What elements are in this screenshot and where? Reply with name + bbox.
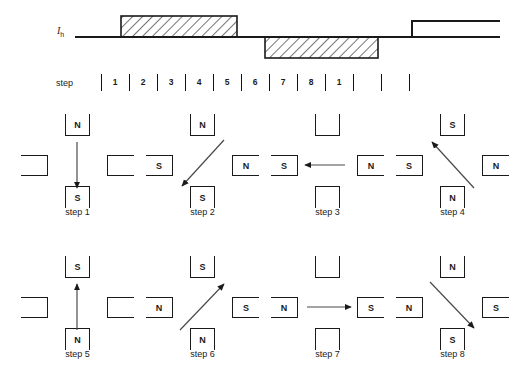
step-number: 1 [102, 77, 128, 87]
magnet-stage: NSNS [390, 252, 513, 348]
step-number: 6 [242, 77, 268, 87]
waveform-svg [0, 0, 502, 62]
field-direction-arrow [390, 110, 513, 206]
magnet-step-7: NSstep 7 [265, 252, 390, 370]
step-caption: step 3 [265, 207, 390, 217]
step-tick [381, 74, 382, 91]
magnet-stage: SNNS [140, 252, 265, 348]
step-number: 3 [158, 77, 184, 87]
positive-pulse [121, 16, 237, 37]
signal-label-subscript: h [60, 31, 64, 38]
magnet-step-1: NSstep 1 [15, 110, 140, 228]
step-caption: step 2 [140, 207, 265, 217]
field-direction-arrow [15, 252, 140, 348]
magnet-stage: SN [265, 110, 390, 206]
field-direction-arrow [265, 110, 390, 206]
magnet-step-6: SNNSstep 6 [140, 252, 265, 370]
step-number: 1 [326, 77, 352, 87]
step-caption: step 8 [390, 349, 513, 359]
step-tick [353, 74, 354, 91]
step-caption: step 1 [15, 207, 140, 217]
step-caption: step 5 [15, 349, 140, 359]
step-number: 7 [270, 77, 296, 87]
step-ruler-label: step [56, 78, 73, 88]
magnet-stage: NS [265, 252, 390, 348]
step-number: 2 [130, 77, 156, 87]
field-direction-arrow [15, 110, 140, 206]
magnet-step-3: SNstep 3 [265, 110, 390, 228]
magnet-stage: SN [15, 252, 140, 348]
step-caption: step 7 [265, 349, 390, 359]
rising-step [412, 21, 500, 37]
magnet-step-8: NSNSstep 8 [390, 252, 513, 370]
magnet-step-5: SNstep 5 [15, 252, 140, 370]
magnet-step-2: NSSNstep 2 [140, 110, 265, 228]
step-ruler: step 123456781 [0, 70, 502, 98]
magnet-stage: NS [15, 110, 140, 206]
step-caption: step 4 [390, 207, 513, 217]
magnet-stage: SNSN [390, 110, 513, 206]
step-number: 4 [186, 77, 212, 87]
signal-label: Ih [57, 26, 64, 38]
field-direction-arrow [140, 110, 265, 206]
step-caption: step 6 [140, 349, 265, 359]
magnet-stage: NSSN [140, 110, 265, 206]
step-number: 8 [298, 77, 324, 87]
step-number: 5 [214, 77, 240, 87]
drive-current-waveform: Ih [0, 0, 502, 62]
negative-pulse [265, 37, 378, 58]
field-direction-arrow [390, 252, 513, 348]
field-direction-arrow [140, 252, 265, 348]
field-direction-arrow [265, 252, 390, 348]
step-tick [409, 74, 410, 91]
magnet-step-4: SNSNstep 4 [390, 110, 513, 228]
